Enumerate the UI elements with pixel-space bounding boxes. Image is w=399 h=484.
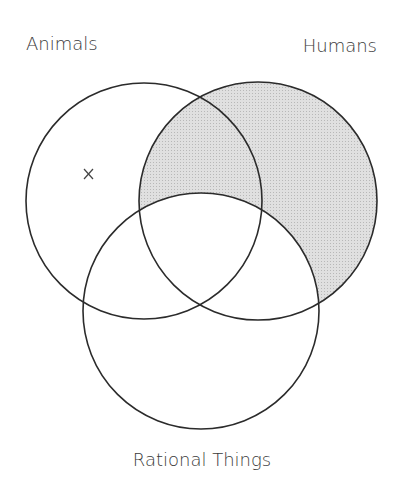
humans-label: Humans xyxy=(303,35,377,56)
venn-diagram: Animals Humans Rational Things xyxy=(0,0,399,484)
x-marker-icon xyxy=(84,169,93,179)
rational-things-label: Rational Things xyxy=(133,449,271,470)
shaded-region-humans-not-rational xyxy=(139,82,377,320)
animals-label: Animals xyxy=(26,33,98,54)
